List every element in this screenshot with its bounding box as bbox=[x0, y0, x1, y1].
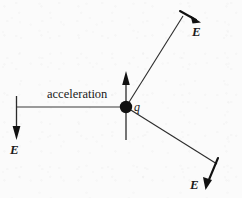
field-label-E-left: E bbox=[10, 143, 19, 156]
diagram-canvas bbox=[0, 0, 242, 198]
physics-diagram-figure: acceleration q E E E bbox=[0, 0, 242, 198]
ray-down-right-shaft bbox=[126, 107, 217, 164]
field-label-E-upper-right: E bbox=[192, 25, 201, 38]
charge-label-q: q bbox=[134, 101, 140, 113]
point-charge-dot bbox=[120, 101, 132, 113]
E-arrow-left bbox=[13, 96, 21, 140]
E-arrow-upper-right-head bbox=[191, 16, 202, 24]
ray-down-right bbox=[126, 107, 217, 164]
E-arrow-lower-right bbox=[203, 158, 218, 190]
ray-up-right bbox=[126, 16, 183, 107]
E-arrow-lower-right-head bbox=[203, 177, 212, 190]
transverse-marker-head bbox=[122, 71, 130, 85]
acceleration-label: acceleration bbox=[47, 88, 107, 101]
E-arrow-upper-right bbox=[180, 11, 201, 24]
field-label-E-lower-right: E bbox=[190, 178, 199, 191]
E-arrow-left-head bbox=[13, 126, 21, 140]
ray-up-right-shaft bbox=[126, 16, 183, 107]
